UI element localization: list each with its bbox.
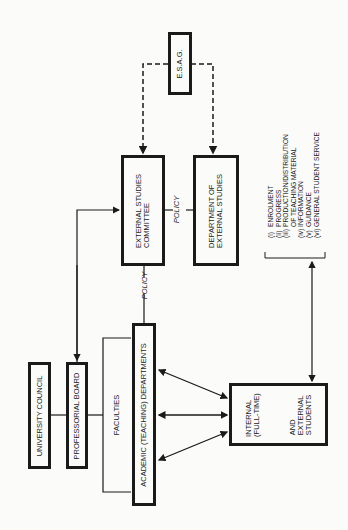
- dept-label-line2: EXTERNAL STUDIES: [216, 174, 224, 248]
- students-node: INTERNAL (FULL-TIME) AND EXTERNAL STUDEN…: [229, 383, 328, 446]
- external-studies-committee-node: EXTERNAL STUDIES COMMITTEE: [121, 155, 165, 266]
- professorial-board-node: PROFESSORIAL BOARD: [66, 362, 88, 469]
- esag-label: E.S.A.G.: [176, 49, 184, 78]
- students-internal-section: INTERNAL (FULL-TIME): [232, 386, 274, 443]
- policy-label-top: POLICY: [172, 196, 181, 224]
- service-item: (iii)PRODUCTION/DISTRIBUTION: [283, 132, 291, 238]
- faculties-label: FACULTIES: [113, 395, 121, 435]
- department-external-studies-node: DEPARTMENT OF EXTERNAL STUDIES: [193, 155, 239, 266]
- students-internal-line2: (FULL-TIME): [253, 393, 261, 437]
- service-item: (vi)GENERAL STUDENT SERVICE: [313, 132, 321, 238]
- service-item: (i)ENROLMENT: [267, 132, 275, 238]
- faculties-group: FACULTIES: [103, 338, 131, 492]
- students-external-line3: STUDENTS: [305, 394, 313, 434]
- university-council-node: UNIVERSITY COUNCIL: [28, 362, 51, 469]
- services-list: (i)ENROLMENT (ii)PROGRESS (iii)PRODUCTIO…: [263, 114, 325, 256]
- service-item: (iv)INFORMATION: [298, 132, 306, 238]
- service-item: OF TEACHING MATERIAL: [290, 132, 298, 238]
- policy-label-bottom: POLICY: [140, 272, 149, 300]
- professorial-board-label: PROFESSORIAL BOARD: [73, 372, 81, 459]
- academic-departments-node: ACADEMIC (TEACHING) DEPARTMENTS: [132, 323, 156, 506]
- university-council-label: UNIVERSITY COUNCIL: [36, 375, 44, 456]
- service-item: (ii)PROGRESS: [275, 132, 283, 238]
- esag-node: E.S.A.G.: [168, 32, 192, 95]
- service-item: (v)GUIDANCE: [305, 132, 313, 238]
- students-external-section: AND EXTERNAL STUDENTS: [275, 386, 327, 443]
- committee-label-line2: COMMITTEE: [143, 174, 151, 248]
- academic-departments-label: ACADEMIC (TEACHING) DEPARTMENTS: [140, 343, 148, 486]
